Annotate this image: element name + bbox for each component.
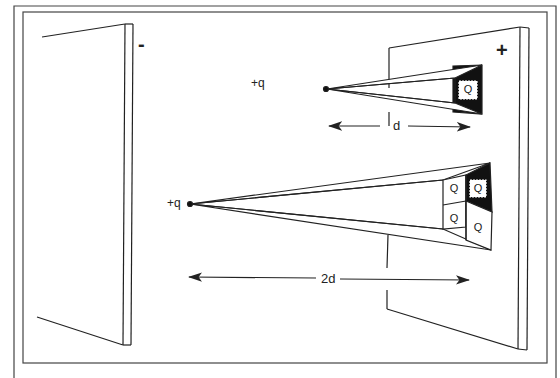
positive-sign-label: + — [496, 40, 508, 60]
near-cell-q: Q — [460, 84, 476, 95]
far-cell-q-bottom-right: Q — [470, 222, 486, 233]
far-field-cone — [188, 163, 493, 250]
negative-plate — [37, 24, 133, 345]
far-distance-label: 2d — [318, 272, 338, 285]
near-charge-label: +q — [251, 77, 265, 89]
inverse-square-diagram: - + +q +q d 2d Q Q Q Q Q — [0, 0, 560, 378]
near-distance-label: d — [390, 119, 403, 132]
far-cell-q-bottom-left: Q — [446, 213, 462, 224]
far-cell-q-top-left: Q — [446, 183, 462, 194]
negative-sign-label: - — [138, 34, 145, 54]
near-field-cone — [324, 65, 483, 114]
distance-arrows — [189, 126, 470, 280]
far-cell-q-top-right: Q — [470, 183, 486, 194]
far-charge-label: +q — [167, 197, 181, 209]
